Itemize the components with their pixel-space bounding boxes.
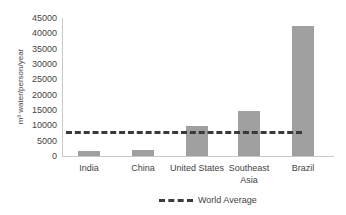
y-tick: 0 bbox=[52, 151, 57, 161]
y-tick: 40000 bbox=[32, 28, 57, 38]
x-label-china: China bbox=[118, 163, 168, 173]
y-tick: 45000 bbox=[32, 13, 57, 23]
y-tick: 35000 bbox=[32, 44, 57, 54]
y-axis-label: m³ water/person/year bbox=[16, 37, 25, 137]
y-tick: 25000 bbox=[32, 74, 57, 84]
y-tick: 10000 bbox=[32, 120, 57, 130]
x-label-united-states: United States bbox=[166, 163, 228, 173]
y-tick: 5000 bbox=[37, 136, 57, 146]
legend: World Average bbox=[159, 195, 257, 205]
x-label-brazil: Brazil bbox=[278, 163, 328, 173]
legend-label: World Average bbox=[198, 195, 257, 205]
x-label-india: India bbox=[64, 163, 114, 173]
bar-india bbox=[78, 151, 100, 156]
x-axis bbox=[62, 156, 334, 157]
y-tick: 15000 bbox=[32, 105, 57, 115]
bar-brazil bbox=[292, 26, 314, 156]
legend-dashed-line-icon bbox=[159, 199, 193, 202]
y-axis bbox=[62, 18, 63, 157]
bar-china bbox=[132, 150, 154, 156]
x-label-asia: Asia bbox=[222, 175, 276, 185]
y-tick: 30000 bbox=[32, 59, 57, 69]
world-average-line bbox=[66, 131, 302, 134]
x-label-southeast: Southeast bbox=[222, 163, 276, 173]
y-tick: 20000 bbox=[32, 90, 57, 100]
